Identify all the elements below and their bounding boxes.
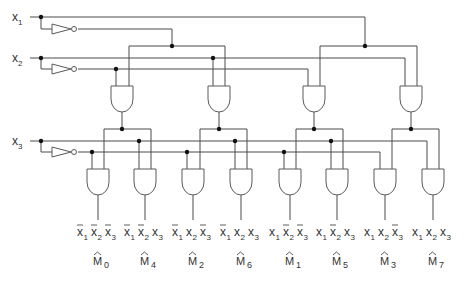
and-gate-lower-1 <box>134 169 156 220</box>
output-label-4: x1x2x3M1 <box>269 225 309 270</box>
svg-text:x: x <box>248 225 254 239</box>
svg-text:3: 3 <box>255 233 260 242</box>
svg-text:x1: x1 <box>12 10 23 27</box>
and-gate-lower-4 <box>279 169 301 220</box>
svg-text:x: x <box>186 225 192 239</box>
svg-text:3: 3 <box>304 233 309 242</box>
svg-text:x: x <box>378 225 384 239</box>
svg-text:M: M <box>188 255 197 267</box>
svg-text:2: 2 <box>193 233 198 242</box>
input-label-x2: x2 <box>12 51 23 68</box>
x1-lines <box>30 15 365 46</box>
svg-text:x: x <box>234 225 240 239</box>
output-label-7: x1x2x3M7 <box>412 225 452 270</box>
svg-text:1: 1 <box>296 260 301 270</box>
svg-text:3: 3 <box>351 233 356 242</box>
svg-text:M: M <box>93 255 102 267</box>
svg-text:x: x <box>440 225 446 239</box>
svg-text:3: 3 <box>399 233 404 242</box>
svg-text:1: 1 <box>131 233 136 242</box>
svg-text:x: x <box>297 225 303 239</box>
inverter-x2 <box>52 64 77 74</box>
svg-text:x3: x3 <box>12 134 23 151</box>
inverter-x1 <box>52 24 77 34</box>
svg-text:2: 2 <box>98 233 103 242</box>
and-gate-upper-3 <box>400 86 422 129</box>
output-label-0: x1x2x3M0 <box>77 225 117 270</box>
input-label-x1: x1 <box>12 10 23 27</box>
svg-text:x: x <box>138 225 144 239</box>
output-labels: x1x2x3M0x1x2x3M4x1x2x3M2x1x2x3M6x1x2x3M1… <box>77 225 452 270</box>
svg-text:6: 6 <box>247 260 252 270</box>
svg-text:x: x <box>392 225 398 239</box>
svg-text:x: x <box>269 225 275 239</box>
svg-text:x: x <box>105 225 111 239</box>
x1bar-bus <box>129 44 225 86</box>
upper-output-buses <box>104 127 439 169</box>
svg-text:M: M <box>236 255 245 267</box>
svg-text:2: 2 <box>290 233 295 242</box>
svg-text:7: 7 <box>439 260 444 270</box>
svg-text:x: x <box>330 225 336 239</box>
svg-text:x: x <box>200 225 206 239</box>
and-gate-lower-0 <box>87 169 109 220</box>
svg-text:M: M <box>380 255 389 267</box>
decoder-diagram: x1 x2 x3 <box>0 0 465 282</box>
svg-text:x: x <box>77 225 83 239</box>
svg-text:1: 1 <box>227 233 232 242</box>
svg-text:x: x <box>316 225 322 239</box>
x3-lines <box>30 139 427 169</box>
output-label-5: x1x2x3M5 <box>316 225 356 270</box>
output-label-2: x1x2x3M2 <box>172 225 212 270</box>
svg-text:3: 3 <box>159 233 164 242</box>
svg-text:M: M <box>428 255 437 267</box>
and-gate-lower-2 <box>182 169 204 220</box>
svg-text:x: x <box>91 225 97 239</box>
svg-text:2: 2 <box>199 260 204 270</box>
and-gate-lower-6 <box>374 169 396 220</box>
output-label-1: x1x2x3M4 <box>124 225 164 270</box>
svg-text:1: 1 <box>179 233 184 242</box>
inverter-x3 <box>52 147 77 157</box>
svg-text:2: 2 <box>433 233 438 242</box>
svg-text:2: 2 <box>241 233 246 242</box>
svg-text:x: x <box>283 225 289 239</box>
svg-text:1: 1 <box>323 233 328 242</box>
and-gate-lower-7 <box>422 169 444 220</box>
svg-text:x: x <box>124 225 130 239</box>
svg-text:x: x <box>220 225 226 239</box>
svg-text:x: x <box>172 225 178 239</box>
svg-text:3: 3 <box>112 233 117 242</box>
svg-text:2: 2 <box>337 233 342 242</box>
svg-text:1: 1 <box>419 233 424 242</box>
svg-text:x: x <box>412 225 418 239</box>
svg-text:4: 4 <box>151 260 156 270</box>
svg-text:x: x <box>364 225 370 239</box>
and-gate-upper-0 <box>111 86 133 129</box>
svg-text:x: x <box>152 225 158 239</box>
svg-text:1: 1 <box>371 233 376 242</box>
and-gate-upper-2 <box>303 86 325 129</box>
svg-text:3: 3 <box>391 260 396 270</box>
svg-text:M: M <box>332 255 341 267</box>
x1-bus <box>320 44 417 86</box>
svg-text:5: 5 <box>343 260 348 270</box>
svg-text:2: 2 <box>385 233 390 242</box>
and-gate-lower-3 <box>230 169 252 220</box>
svg-text:x2: x2 <box>12 51 23 68</box>
svg-text:M: M <box>285 255 294 267</box>
output-label-6: x1x2x3M3 <box>364 225 404 270</box>
svg-text:x: x <box>426 225 432 239</box>
and-gate-lower-5 <box>326 169 348 220</box>
svg-text:3: 3 <box>207 233 212 242</box>
svg-text:1: 1 <box>84 233 89 242</box>
svg-text:3: 3 <box>447 233 452 242</box>
output-label-3: x1x2x3M6 <box>220 225 260 270</box>
x2-lines <box>30 56 405 86</box>
svg-text:M: M <box>140 255 149 267</box>
svg-text:1: 1 <box>276 233 281 242</box>
input-label-x3: x3 <box>12 134 23 151</box>
svg-text:2: 2 <box>145 233 150 242</box>
svg-text:0: 0 <box>104 260 109 270</box>
svg-text:x: x <box>344 225 350 239</box>
